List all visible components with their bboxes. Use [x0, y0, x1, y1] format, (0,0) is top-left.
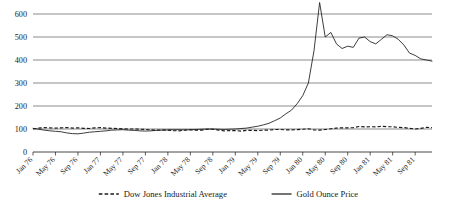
x-tick-label-8: Sep 78 — [193, 155, 214, 176]
y-tick-label-500: 500 — [15, 33, 27, 42]
x-tick-label-17: Sep 81 — [395, 155, 416, 176]
gridlines-group — [33, 14, 432, 129]
legend-label: Dow Jones Industrial Average — [124, 189, 227, 199]
x-tick-label-3: Jan 77 — [82, 155, 102, 175]
x-tick-label-15: Jan 81 — [351, 155, 371, 175]
y-tick-label-300: 300 — [15, 79, 27, 88]
x-tick-label-4: May 77 — [101, 155, 124, 178]
gold-vs-dow-chart: 0100200300400500600 Jan 76May 76Sep 76Ja… — [0, 0, 450, 213]
x-tick-label-13: May 80 — [304, 155, 327, 178]
chart-legend: Dow Jones Industrial AverageGold Ounce P… — [99, 189, 359, 199]
x-tick-label-9: Jan 79 — [216, 155, 236, 175]
legend-item-dow-jones-industrial-average: Dow Jones Industrial Average — [99, 189, 227, 199]
x-tick-label-1: May 76 — [34, 155, 57, 178]
x-tick-label-7: May 78 — [169, 155, 192, 178]
x-tick-label-12: Jan 80 — [284, 155, 304, 175]
y-axis-labels-group: 0100200300400500600 — [15, 10, 27, 157]
series-line-gold-ounce-price — [33, 3, 432, 134]
x-tick-label-11: Sep 79 — [261, 155, 282, 176]
x-axis-group — [33, 152, 432, 156]
y-tick-label-200: 200 — [15, 102, 27, 111]
x-tick-label-16: May 81 — [371, 155, 394, 178]
x-tick-label-5: Sep 77 — [126, 155, 147, 176]
legend-item-gold-ounce-price: Gold Ounce Price — [272, 189, 359, 199]
legend-label: Gold Ounce Price — [297, 189, 359, 199]
x-tick-label-6: Jan 78 — [149, 155, 169, 175]
x-tick-label-0: Jan 76 — [14, 155, 34, 175]
x-tick-label-14: Sep 80 — [328, 155, 349, 176]
x-tick-label-2: Sep 76 — [58, 155, 79, 176]
x-axis-labels-group: Jan 76May 76Sep 76Jan 77May 77Sep 77Jan … — [14, 155, 417, 178]
chart-canvas: 0100200300400500600 Jan 76May 76Sep 76Ja… — [0, 0, 450, 213]
series-group — [33, 3, 432, 134]
y-tick-label-400: 400 — [15, 56, 27, 65]
x-tick-label-10: May 79 — [236, 155, 259, 178]
y-tick-label-600: 600 — [15, 10, 27, 19]
y-tick-label-100: 100 — [15, 125, 27, 134]
